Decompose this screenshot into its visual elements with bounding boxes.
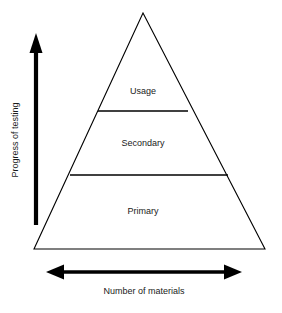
horizontal-arrow-head-right xyxy=(224,265,242,280)
pyramid-figure: Usage Secondary Primary Progress of test… xyxy=(0,0,282,313)
diagram-canvas: Usage Secondary Primary Progress of test… xyxy=(0,0,282,313)
horizontal-axis-arrow xyxy=(46,265,242,280)
vertical-axis-label: Progress of testing xyxy=(10,102,20,177)
tier-label-primary: Primary xyxy=(128,206,159,216)
tier-label-secondary: Secondary xyxy=(121,138,165,148)
vertical-arrow-head-up xyxy=(30,33,43,53)
horizontal-axis-label: Number of materials xyxy=(103,286,185,296)
horizontal-arrow-head-left xyxy=(46,265,64,280)
tier-label-usage: Usage xyxy=(130,86,156,96)
vertical-axis-arrow xyxy=(30,33,43,225)
